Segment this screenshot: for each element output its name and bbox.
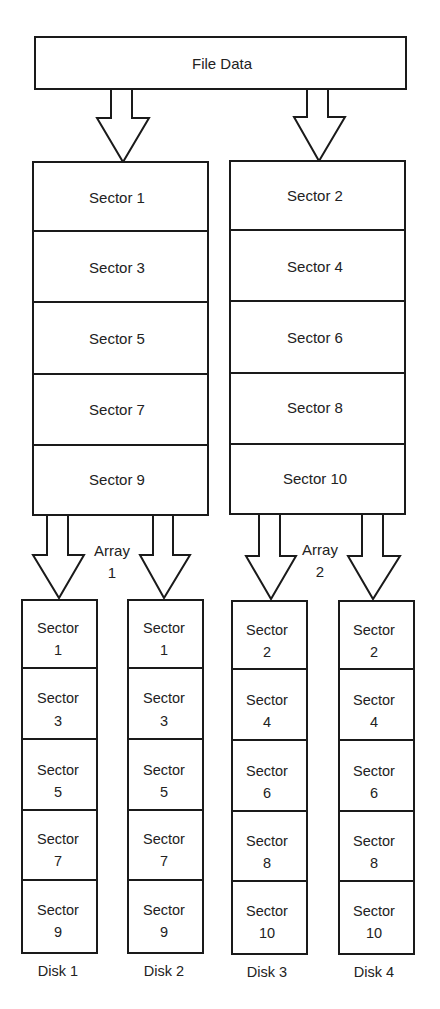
disk-sector-number: 10 (259, 925, 275, 941)
disk-sector: Sector (353, 833, 395, 849)
disk-sector: Sector (246, 903, 288, 919)
disk-sector-number: 1 (54, 642, 62, 658)
disk-sector-number: 6 (370, 785, 378, 801)
array-2-box: Sector 2 Sector 4 Sector 6 Sector 8 Sect… (230, 161, 405, 514)
disk-1: Sector 1 Sector 3 Sector 5 Sector 7 Sect… (22, 600, 97, 953)
array-sector: Sector 8 (287, 399, 343, 416)
disk-4-label: Disk 4 (354, 964, 394, 980)
disk-3: Sector 2 Sector 4 Sector 6 Sector 8 Sect… (232, 601, 307, 954)
arrow-down-icon (246, 514, 296, 599)
disk-sector: Sector (37, 831, 79, 847)
disk-sector: Sector (353, 763, 395, 779)
disk-sector: Sector (246, 833, 288, 849)
array-2-label: Array (302, 541, 338, 558)
disk-sector: Sector (353, 692, 395, 708)
disk-sector-number: 2 (263, 644, 271, 660)
disk-sector-number: 5 (160, 784, 168, 800)
arrow-down-icon (97, 89, 149, 162)
disk-sector-number: 7 (54, 853, 62, 869)
disk-sector-number: 8 (370, 855, 378, 871)
array-sector: Sector 1 (89, 189, 145, 206)
disk-sector-number: 7 (160, 853, 168, 869)
disk-sector: Sector (143, 762, 185, 778)
disk-sector: Sector (37, 620, 79, 636)
disk-sector-number: 8 (263, 855, 271, 871)
array-sector: Sector 2 (287, 187, 343, 204)
disk-sector-number: 6 (263, 785, 271, 801)
disk-sector: Sector (143, 620, 185, 636)
array-1-label: Array (94, 542, 130, 559)
disk-sector-number: 1 (160, 642, 168, 658)
array-1-box: Sector 1 Sector 3 Sector 5 Sector 7 Sect… (33, 162, 208, 515)
array-1-number: 1 (108, 564, 116, 581)
disk-sector-number: 2 (370, 644, 378, 660)
array-sector: Sector 7 (89, 401, 145, 418)
disk-sector-number: 9 (54, 924, 62, 940)
disk-sector-number: 4 (263, 714, 271, 730)
array-sector: Sector 5 (89, 330, 145, 347)
array-2-number: 2 (316, 563, 324, 580)
arrow-down-icon (140, 515, 190, 598)
disk-sector: Sector (353, 622, 395, 638)
disk-2: Sector 1 Sector 3 Sector 5 Sector 7 Sect… (128, 600, 203, 953)
disk-4: Sector 2 Sector 4 Sector 6 Sector 8 Sect… (339, 601, 414, 954)
disk-sector: Sector (353, 903, 395, 919)
disk-sector: Sector (37, 902, 79, 918)
arrow-down-icon (294, 89, 345, 161)
disk-sector-number: 3 (160, 713, 168, 729)
disk-sector: Sector (143, 831, 185, 847)
disk-sector-number: 9 (160, 924, 168, 940)
disk-3-label: Disk 3 (247, 964, 287, 980)
array-sector: Sector 4 (287, 258, 343, 275)
disk-sector-number: 4 (370, 714, 378, 730)
array-sector: Sector 3 (89, 259, 145, 276)
disk-sector: Sector (143, 902, 185, 918)
file-data-label: File Data (192, 55, 253, 72)
file-data-box: File Data (35, 37, 406, 89)
arrow-down-icon (348, 514, 400, 599)
disk-sector: Sector (37, 690, 79, 706)
array-sector: Sector 10 (283, 470, 347, 487)
array-sector: Sector 9 (89, 471, 145, 488)
disk-sector: Sector (37, 762, 79, 778)
array-sector: Sector 6 (287, 329, 343, 346)
disk-sector-number: 3 (54, 713, 62, 729)
disk-sector-number: 10 (366, 925, 382, 941)
disk-2-label: Disk 2 (144, 963, 184, 979)
disk-sector: Sector (246, 763, 288, 779)
arrow-down-icon (33, 515, 84, 598)
disk-sector-number: 5 (54, 784, 62, 800)
raid-diagram: File Data Sector 1 Sector 3 Sector 5 Sec… (0, 0, 440, 1009)
disk-sector: Sector (143, 690, 185, 706)
disk-sector: Sector (246, 622, 288, 638)
disk-1-label: Disk 1 (38, 963, 78, 979)
disk-sector: Sector (246, 692, 288, 708)
